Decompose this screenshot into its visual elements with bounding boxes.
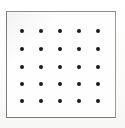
lattice-dot: [96, 99, 100, 103]
figure-container: [0, 0, 125, 128]
lattice-dot: [39, 99, 43, 103]
dot-lattice: [6, 11, 116, 118]
dot-row: [6, 11, 116, 118]
lattice-dot: [77, 99, 81, 103]
lattice-dot: [20, 99, 24, 103]
lattice-dot: [58, 99, 62, 103]
